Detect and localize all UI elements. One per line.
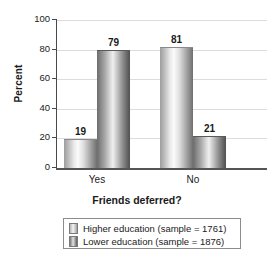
y-tick-40 xyxy=(52,108,57,109)
legend-item-lower-education[interactable]: Lower education (sample = 1876) xyxy=(69,235,235,248)
y-tick-80 xyxy=(52,49,57,50)
bar-value-no-higher: 81 xyxy=(157,35,197,45)
bar-value-no-lower: 21 xyxy=(190,124,230,134)
x-label-no: No xyxy=(153,175,233,185)
bar-yes-lower-education[interactable] xyxy=(97,50,130,168)
legend: Higher education (sample = 1761) Lower e… xyxy=(63,218,241,249)
bar-chart: 19 79 81 21 100 80 60 40 20 0 Percent Ye… xyxy=(0,0,274,260)
gridline-100 xyxy=(57,20,267,21)
legend-item-higher-education[interactable]: Higher education (sample = 1761) xyxy=(69,222,235,235)
y-tick-labels: 100 80 60 40 20 0 xyxy=(22,0,50,180)
y-tick-20 xyxy=(52,137,57,138)
legend-swatch-icon-lower xyxy=(69,236,78,247)
bar-yes-higher-education[interactable] xyxy=(64,139,97,168)
x-axis-line xyxy=(56,168,267,170)
bar-no-lower-education[interactable] xyxy=(193,136,226,168)
y-axis-title: Percent xyxy=(13,54,24,114)
legend-swatch-icon-higher xyxy=(69,223,78,234)
y-label-100: 100 xyxy=(24,14,50,24)
y-tick-60 xyxy=(52,78,57,79)
y-label-20: 20 xyxy=(24,132,50,142)
x-axis-title: Friends deferred? xyxy=(0,194,274,206)
bar-no-higher-education[interactable] xyxy=(160,47,193,168)
plot-area: 19 79 81 21 xyxy=(57,20,267,168)
y-label-80: 80 xyxy=(24,44,50,54)
y-tick-100 xyxy=(52,19,57,20)
y-label-60: 60 xyxy=(24,73,50,83)
legend-label-lower: Lower education (sample = 1876) xyxy=(83,236,224,247)
y-label-40: 40 xyxy=(24,103,50,113)
legend-label-higher: Higher education (sample = 1761) xyxy=(83,223,226,234)
x-label-yes: Yes xyxy=(57,175,137,185)
bar-value-yes-lower: 79 xyxy=(94,38,134,48)
y-label-0: 0 xyxy=(24,162,50,172)
y-axis-line xyxy=(56,19,57,169)
bar-value-yes-higher: 19 xyxy=(61,127,101,137)
